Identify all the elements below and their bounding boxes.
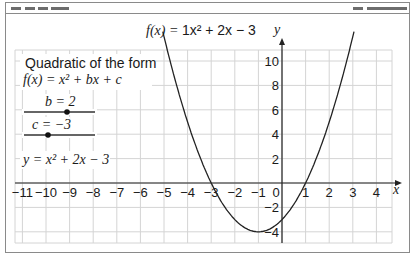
slider-c-label: c = −3 — [32, 117, 71, 133]
y-axis-arrow-icon — [279, 38, 285, 45]
panel-title: Quadratic of the form — [25, 55, 157, 71]
x-tick-label: −9 — [62, 185, 77, 200]
y-tick-label: −4 — [264, 225, 279, 240]
x-tick-label: 2 — [326, 185, 333, 200]
x-tick-label: −8 — [86, 185, 101, 200]
x-tick-label: −5 — [157, 185, 172, 200]
slider-b-label: b = 2 — [45, 94, 75, 110]
slider-c-handle[interactable] — [45, 132, 51, 138]
y-tick-label: 10 — [265, 54, 279, 69]
y-tick-label: −2 — [264, 200, 279, 215]
slider-b-handle[interactable] — [64, 109, 70, 115]
x-tick-label: −6 — [133, 185, 148, 200]
x-tick-label: −10 — [35, 185, 57, 200]
x-tick-label: −7 — [109, 185, 124, 200]
x-tick-label: −4 — [180, 185, 195, 200]
y-tick-label: 2 — [272, 152, 279, 167]
x-tick-label: 0 — [272, 185, 279, 200]
y-axis-label: y — [274, 22, 280, 38]
function-label: f(x) = 1x² + 2x − 3 — [146, 22, 256, 39]
x-tick-label: −1 — [251, 185, 266, 200]
y-tick-label: 4 — [272, 127, 279, 142]
x-tick-label: 3 — [349, 185, 356, 200]
x-tick-label: −2 — [227, 185, 242, 200]
x-axis-label: x — [393, 182, 399, 198]
x-tick-label: 4 — [373, 185, 380, 200]
general-form: f(x) = x² + bx + c — [23, 72, 122, 88]
y-tick-label: 6 — [272, 103, 279, 118]
y-tick-label: 8 — [272, 78, 279, 93]
equation-label: y = x² + 2x − 3 — [23, 152, 109, 168]
x-tick-label: −11 — [12, 185, 33, 200]
